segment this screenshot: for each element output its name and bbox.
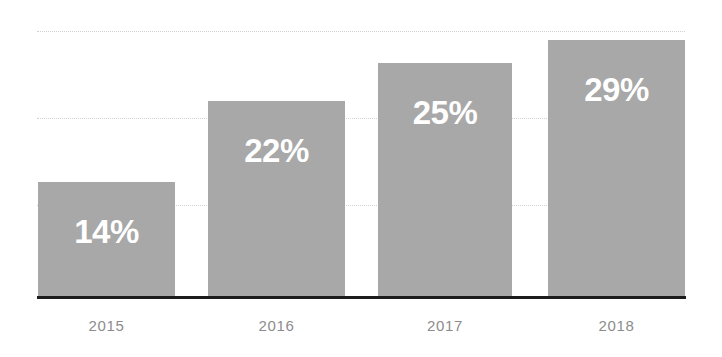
bar-2017[interactable]: 25% (378, 63, 512, 297)
x-axis-baseline (37, 296, 686, 299)
category-axis: 2015 2016 2017 2018 (0, 316, 722, 346)
category-label-2017: 2017 (378, 316, 512, 336)
bar-chart: 14% 22% 25% 29% 2015 2016 2017 2018 (0, 0, 722, 357)
bar-value-label-2018: 29% (548, 73, 685, 106)
plot-area: 14% 22% 25% 29% (0, 0, 722, 300)
bar-2015[interactable]: 14% (38, 182, 175, 297)
bar-2016[interactable]: 22% (208, 101, 345, 297)
gridline-top (37, 31, 685, 32)
bar-value-label-2015: 14% (38, 215, 175, 248)
category-label-2018: 2018 (548, 316, 685, 336)
category-label-2015: 2015 (38, 316, 175, 336)
bar-value-label-2016: 22% (208, 134, 345, 167)
bar-value-label-2017: 25% (378, 96, 512, 129)
bar-2018[interactable]: 29% (548, 40, 685, 297)
category-label-2016: 2016 (208, 316, 345, 336)
